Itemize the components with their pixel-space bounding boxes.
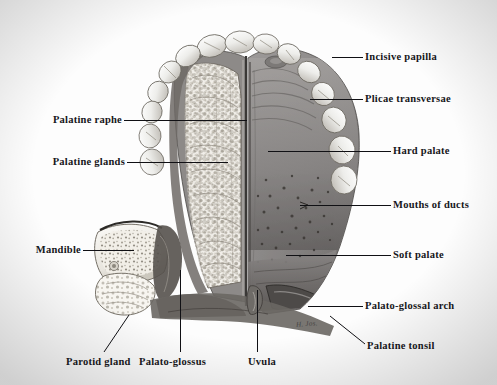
label-hard-palate: Hard palate (393, 145, 450, 157)
parotid-section-region (95, 273, 155, 315)
label-incisive-papilla: Incisive papilla (365, 51, 437, 63)
label-palatine-tonsil: Palatine tonsil (367, 340, 435, 352)
artist-signature: H. Jos. (296, 319, 318, 328)
label-palatine-glands: Palatine glands (0, 156, 125, 168)
label-palato-glossal-arch: Palato-glossal arch (365, 300, 454, 312)
label-mouths-of-ducts: Mouths of ducts (393, 199, 469, 211)
label-plicae-transversae: Plicae transversae (365, 93, 451, 105)
label-soft-palate: Soft palate (393, 249, 444, 261)
label-parotid-gland: Parotid gland (66, 356, 131, 368)
label-uvula: Uvula (248, 356, 276, 368)
label-palato-glossus: Palato-glossus (139, 356, 206, 368)
label-palatine-raphe: Palatine raphe (0, 114, 122, 126)
label-mandible: Mandible (0, 244, 81, 256)
